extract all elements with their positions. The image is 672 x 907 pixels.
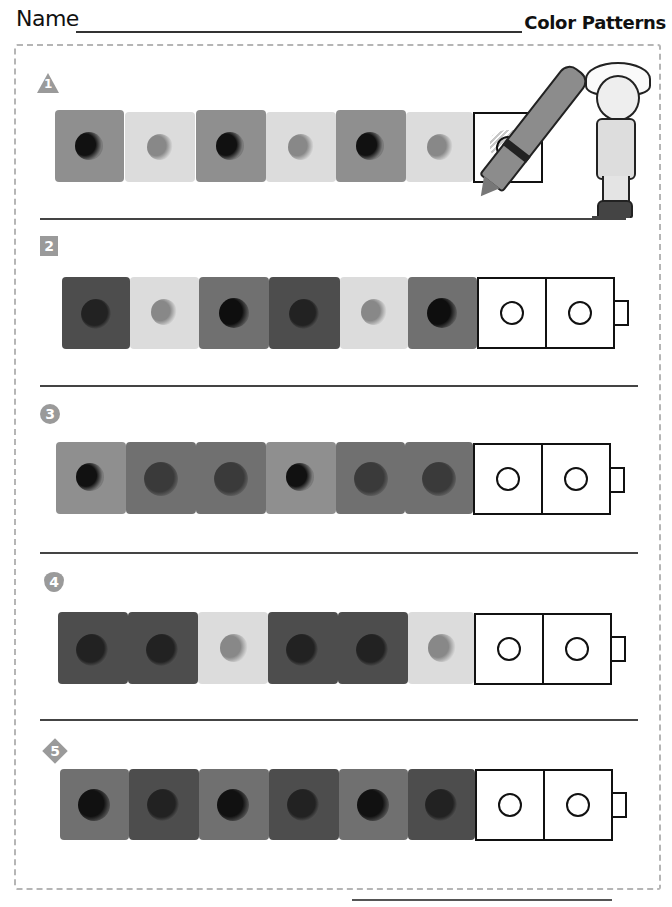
cube-medium [196,110,266,182]
row-separator [40,552,638,554]
cube-dark [269,769,339,840]
row-label-diamond-icon: 5 [42,738,67,763]
answer-box[interactable] [541,443,611,515]
footer-line [352,899,612,901]
cube-hole [354,462,388,496]
circle-outline [564,467,588,491]
cube-connector-tab [609,467,625,493]
cube-light [340,277,408,349]
circle-outline [565,637,589,661]
cube-hole [422,462,456,496]
cube-dark [268,612,338,684]
cube-dark [62,277,130,349]
cube-medium-dark [405,442,473,514]
circle-outline [498,793,522,817]
cube-hole [427,134,453,160]
cube-dark [58,612,128,684]
cube-hole [289,299,319,329]
cube-connector-tab [610,636,626,662]
cube-light [408,612,474,684]
row-number: 1 [44,77,52,91]
cube-hole [361,299,387,325]
cube-hole [288,134,314,160]
cube-connector-tab [613,300,629,326]
cube-hole [216,132,244,160]
cube-hole [220,634,248,662]
cube-medium-dark [199,277,269,349]
cube-dark [129,769,199,840]
answer-box[interactable] [542,613,612,685]
circle-outline [566,793,590,817]
row-label-square-icon: 2 [40,236,58,256]
cube-hole [286,463,314,491]
cube-hole [147,789,179,821]
cube-hole [219,298,249,328]
cube-medium [266,442,336,514]
child-head-illustration [596,75,640,121]
cube-dark [128,612,198,684]
name-label: Name [16,6,79,31]
cube-connector-tab [611,792,627,818]
worksheet-title: Color Patterns [524,12,666,33]
answer-box[interactable] [475,769,545,841]
cube-hole [357,789,389,821]
cube-medium [55,110,124,182]
cube-hole [428,634,456,662]
cube-medium-dark [199,769,269,840]
cube-hole [151,299,177,325]
cube-hole [217,789,249,821]
cube-hole [76,463,104,491]
cube-medium-dark [60,769,129,840]
circle-outline [497,637,521,661]
row-separator [40,385,638,387]
cube-dark [338,612,408,684]
cube-light [130,277,199,349]
cube-medium-dark [408,277,477,349]
cube-medium-dark [126,442,196,514]
row-number: 3 [45,406,55,422]
cube-dark [408,769,475,840]
cube-hole [427,298,457,328]
answer-box[interactable] [545,277,615,349]
row-number: 2 [44,238,54,254]
answer-box[interactable] [543,769,613,841]
cube-hole [81,299,111,329]
cube-hole [214,462,248,496]
cube-light [198,612,268,684]
row-label-triangle-icon: 1 [37,73,59,93]
cube-medium-dark [339,769,408,840]
cube-hole [147,134,173,160]
row-number: 4 [49,574,59,590]
cube-light [125,112,195,182]
cube-hole [75,132,103,160]
row-number: 5 [46,742,64,760]
cube-hole [356,634,388,666]
row-separator [40,719,638,721]
cube-hole [146,634,178,666]
circle-outline [568,301,592,325]
circle-outline [500,301,524,325]
cube-hole [76,634,108,666]
cube-hole [287,789,319,821]
cube-hole [144,462,178,496]
row-separator [40,218,626,220]
child-body-illustration [596,118,636,180]
answer-box[interactable] [473,443,543,515]
cube-light [266,112,336,182]
answer-box[interactable] [474,613,544,685]
cube-hole [425,789,457,821]
row-label-circle-icon: 3 [40,404,60,424]
circle-outline [496,467,520,491]
cube-hole [286,634,318,666]
answer-box[interactable] [477,277,547,349]
cube-medium-dark [336,442,405,514]
cube-light [406,112,473,182]
cube-dark [269,277,340,349]
cube-hole [78,789,110,821]
cube-medium [336,110,406,182]
cube-medium [56,442,126,514]
cube-medium-dark [196,442,266,514]
name-write-line[interactable] [76,31,522,33]
cube-hole [356,132,384,160]
